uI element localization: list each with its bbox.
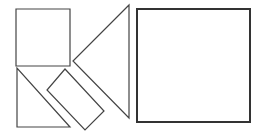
small-square-shape (16, 9, 70, 66)
large-square-shape (137, 9, 250, 122)
diagram-svg (0, 0, 262, 135)
tangram-diagram (0, 0, 262, 135)
